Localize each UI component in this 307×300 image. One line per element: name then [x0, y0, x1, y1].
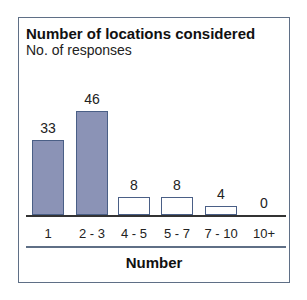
bar-value-label: 33	[28, 120, 68, 136]
bar-5	[205, 206, 237, 215]
x-axis-label: Number	[18, 254, 290, 271]
bar-4	[161, 197, 193, 215]
axis-divider	[26, 246, 286, 248]
x-tick-label: 2 - 3	[69, 226, 115, 241]
bar-1	[32, 140, 64, 215]
x-tick-label: 5 - 7	[154, 226, 200, 241]
bar-value-label: 4	[201, 186, 241, 202]
bar-value-label: 8	[157, 177, 197, 193]
bar-value-label: 46	[72, 91, 112, 107]
bar-2	[76, 111, 108, 215]
bar-3	[118, 197, 150, 215]
x-tick-label: 4 - 5	[111, 226, 157, 241]
chart-title: Number of locations considered	[26, 25, 255, 42]
bar-value-label: 0	[244, 195, 284, 211]
x-tick-label: 10+	[241, 226, 287, 241]
x-tick-label: 1	[25, 226, 71, 241]
x-tick-label: 7 - 10	[198, 226, 244, 241]
x-axis-line	[26, 215, 286, 217]
chart-subtitle: No. of responses	[26, 42, 132, 58]
bar-value-label: 8	[114, 177, 154, 193]
